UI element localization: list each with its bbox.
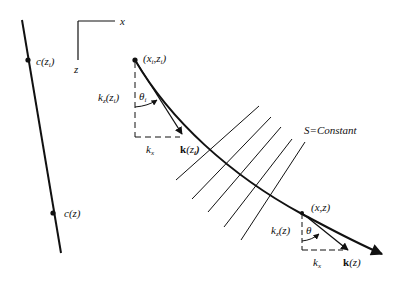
wavefront-label: S=Constant [304,124,358,136]
kz-z-label: kz(z) [271,224,291,238]
ray-path: (xi,zi) (x,z) [132,52,382,254]
coordinate-axes: x z [73,15,125,75]
point-c-z [50,210,55,215]
z-axis-label: z [73,63,79,75]
k-zi-vector-label: k(zi) [180,143,200,157]
ray-tracing-diagram: x z c(zi) c(z) S=Constant (xi,zi) (x,z) … [0,0,401,287]
wavefronts: S=Constant [176,106,358,240]
start-wavevector-decomposition: kz(zi) θi kx k(zi) [98,60,200,157]
kx-end-label: kx [313,256,322,270]
theta-label: θ [306,224,312,236]
kz-zi-label: kz(zi) [98,91,120,105]
point-c-zi [25,57,30,62]
c-z-label: c(z) [64,207,81,220]
k-z-vector-label: k(z) [343,256,361,269]
end-point-label: (x,z) [311,201,331,214]
theta-i-label: θi [139,90,146,104]
kx-start-label: kx [146,143,155,157]
start-point-label: (xi,zi) [143,52,166,66]
x-axis-label: x [119,15,125,27]
c-zi-label: c(zi) [36,55,55,69]
velocity-profile: c(zi) c(z) [22,20,81,253]
